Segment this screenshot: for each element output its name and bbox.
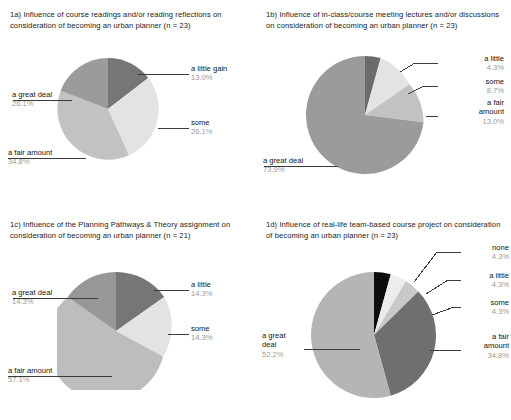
label-1c-a-little: a little 14.3% — [191, 280, 253, 299]
label-1b-a-fair-amount-line1: a fair — [487, 98, 504, 107]
label-1d-a-great-deal-line1: a great — [262, 331, 286, 340]
label-1c-some-text: some — [191, 324, 210, 333]
label-1d-some: some 4.3% — [457, 298, 509, 317]
label-1d-some-pct: 4.3% — [457, 307, 509, 316]
label-1b-some-text: some — [485, 77, 504, 86]
label-1c-a-fair-amount-text: a fair amount — [8, 366, 52, 375]
label-1b-a-great-deal-text: a great deal — [263, 156, 303, 165]
label-1d-none-text: none — [492, 243, 509, 252]
label-1d-a-fair-amount-line2: amount — [484, 341, 509, 350]
label-1b-a-little-pct: 4.3% — [440, 63, 504, 72]
label-1d-a-little-pct: 4.3% — [457, 280, 509, 289]
label-1a-a-little-gain-pct: 13.0% — [191, 73, 253, 82]
label-1c-a-great-deal-text: a great deal — [12, 288, 52, 297]
label-1b-some-pct: 8.7% — [440, 86, 504, 95]
label-1c-some: some 14.3% — [191, 324, 253, 343]
label-1b-a-great-deal-pct: 73.9% — [263, 165, 343, 174]
label-1a-a-great-deal: a great deal 26.1% — [12, 90, 92, 109]
label-1b-a-little-text: a little — [484, 54, 504, 63]
label-1c-some-pct: 14.3% — [191, 333, 253, 342]
label-1c-a-great-deal-pct: 14.3% — [12, 297, 92, 306]
panel-1c: 1c) Influence of the Planning Pathways &… — [0, 210, 255, 420]
label-1b-a-little: a little 4.3% — [440, 54, 504, 73]
label-1d-a-little: a little 4.3% — [457, 271, 509, 290]
label-1d-a-great-deal-pct: 52.2% — [262, 350, 322, 359]
label-1d-a-fair-amount-line1: a fair — [492, 332, 509, 341]
label-1b-a-fair-amount-pct: 13.0% — [440, 117, 504, 126]
label-1a-some-pct: 26.1% — [191, 127, 253, 136]
label-1a-a-fair-amount: a fair amount 34.8% — [8, 148, 94, 167]
label-1a-some-text: some — [191, 118, 210, 127]
label-1d-none: none 4.3% — [463, 243, 509, 262]
label-1a-a-fair-amount-pct: 34.8% — [8, 157, 94, 166]
panel-1d: 1d) Influence of real-life team-based co… — [256, 210, 511, 420]
panel-1a: 1a) Influence of course readings and/or … — [0, 0, 255, 210]
label-1c-a-fair-amount-pct: 57.1% — [8, 375, 108, 384]
label-1c-a-fair-amount: a fair amount 57.1% — [8, 366, 108, 385]
label-1b-a-fair-amount-line2: amount — [479, 107, 504, 116]
label-1d-a-fair-amount-pct: 34.8% — [455, 351, 509, 360]
label-1d-a-little-text: a little — [489, 271, 509, 280]
label-1d-none-pct: 4.3% — [463, 252, 509, 261]
label-1a-a-little-gain-text: a little gain — [191, 64, 227, 73]
panel-1b: 1b) Influence of in-class/course meeting… — [256, 0, 511, 210]
label-1d-a-great-deal: a great deal 52.2% — [262, 331, 322, 359]
label-1b-a-fair-amount: a fair amount 13.0% — [440, 98, 504, 126]
label-1d-a-fair-amount: a fair amount 34.8% — [455, 332, 509, 360]
leader-lines-1c — [0, 210, 255, 420]
label-1a-a-great-deal-pct: 26.1% — [12, 99, 92, 108]
label-1c-a-little-text: a little — [191, 280, 211, 289]
label-1c-a-little-pct: 14.3% — [191, 289, 253, 298]
label-1a-a-great-deal-text: a great deal — [12, 90, 52, 99]
label-1c-a-great-deal: a great deal 14.3% — [12, 288, 92, 307]
label-1a-some: some 26.1% — [191, 118, 253, 137]
label-1a-a-fair-amount-text: a fair amount — [8, 148, 52, 157]
label-1b-some: some 8.7% — [440, 77, 504, 96]
label-1a-a-little-gain: a little gain 13.0% — [191, 64, 253, 83]
label-1d-a-great-deal-line2: deal — [262, 340, 276, 349]
label-1b-a-great-deal: a great deal 73.9% — [263, 156, 343, 175]
label-1d-some-text: some — [490, 298, 509, 307]
